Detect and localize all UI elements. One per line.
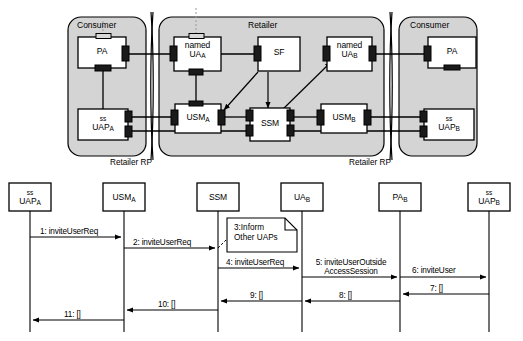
ssm-text: SSM [261,118,279,128]
ua-a-text: UA [190,49,202,59]
pa-a-text: PA [97,46,108,56]
message-label-8: 8: [] [339,291,352,300]
ll-uap-a-sub: A [36,199,40,206]
pa-b-text: PA [447,46,458,56]
message-label-6: 6: inviteUser [412,266,456,275]
ua-b-sub: B [353,52,357,59]
component-label-usm-a: USMA [175,113,221,122]
component-label-pa-b: PA [428,47,476,56]
component-label-ssm: SSM [250,119,290,128]
component-label-sf: SF [258,48,300,57]
usm-b-text: USM [333,112,352,122]
rp-label-right: Retailer RP [349,158,391,167]
ll-ua-b-sub: B [306,196,310,203]
reference-point-right [390,12,393,160]
ll-ssm-text: SSM [209,192,227,202]
usm-a-text: USM [187,112,206,122]
message-label-11: 11: [] [64,310,81,319]
message-label-2: 2: inviteUserReq [133,238,191,247]
diagram-canvas: Consumer Retailer Consumer Retailer RP R… [0,0,523,341]
ll-pa-b-sub: B [403,196,407,203]
note-anchor-line [218,240,226,248]
uap-b-sub: B [455,125,459,132]
lifeline-label-ua-b: UAB [281,193,323,202]
message-5-line2: AccessSession [324,267,378,276]
message-label-10: 10: [] [158,300,175,309]
ll-uap-a-text: UAP [19,196,36,206]
message-label-7: 7: [] [430,284,443,293]
reference-point-left [151,12,154,160]
rp-label-left: Retailer RP [110,158,152,167]
domain-title-consumer-right: Consumer [410,20,449,30]
message-label-9: 9: [] [250,291,263,300]
component-label-uap-b: ss UAPB [424,114,474,132]
usm-b-sub: B [351,116,355,123]
ll-uap-b-text: UAP [478,196,495,206]
ll-usm-a-text: USM [113,192,132,202]
ll-ua-b-text: UA [294,192,306,202]
ll-usm-a-sub: A [131,196,135,203]
component-label-ua-b: named UAB [327,41,372,59]
component-label-ua-a: named UAA [174,41,221,59]
message-label-4: 4: inviteUserReq [226,258,284,267]
note-text: 3:Inform Other UAPs [234,223,278,243]
usm-a-sub: A [205,116,209,123]
uap-a-sub: A [109,125,113,132]
message-5-line1: 5: inviteUserOutside [316,258,387,267]
lifeline-label-ssm: SSM [197,193,239,202]
lifeline-label-usm-a: USMA [103,193,145,202]
ua-b-text: UA [342,49,354,59]
lifeline-label-uap-a: ss UAPA [9,188,51,206]
note-line2: Other UAPs [234,233,278,242]
uap-a-text: UAP [92,122,109,132]
uap-b-text: UAP [438,122,455,132]
ll-uap-b-sub: B [495,199,499,206]
lifeline-label-pa-b: PAB [379,193,421,202]
ua-a-sub: A [201,52,205,59]
ll-pa-b-text: PA [393,192,404,202]
message-label-5: 5: inviteUserOutside AccessSession [303,258,399,277]
sf-text: SF [274,47,285,57]
lifeline-heads[interactable] [9,183,510,211]
lifeline-label-uap-b: ss UAPB [468,188,510,206]
component-label-usm-b: USMB [321,113,367,122]
component-label-uap-a: ss UAPA [78,114,128,132]
component-label-pa-a: PA [78,47,126,56]
note-line1: 3:Inform [234,223,264,232]
domain-title-consumer-left: Consumer [77,20,116,30]
message-label-1: 1: inviteUserReq [40,227,98,236]
domain-title-retailer: Retailer [248,20,277,30]
